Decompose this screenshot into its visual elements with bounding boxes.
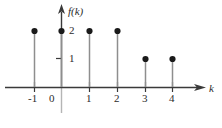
x-tick-label-2: 2 [114, 93, 120, 104]
marker-k-1 [86, 28, 92, 34]
marker-k-4 [169, 56, 175, 62]
x-axis-label-text: k [209, 82, 214, 94]
data-point-markers [31, 28, 175, 62]
stem-lines [35, 31, 173, 87]
y-axis-label: f(k) [68, 6, 83, 17]
x-tick-label-3: 3 [142, 93, 148, 104]
stem-plot-figure: f(k) k 2 1 -1 0 1 2 3 4 [0, 0, 222, 128]
x-axis-label: k [209, 83, 214, 94]
plot-canvas [0, 0, 222, 128]
y-axis-label-text: f(k) [68, 5, 83, 17]
marker-k-2 [114, 28, 120, 34]
y-tick-label-1: 1 [69, 53, 75, 64]
marker-k-3 [142, 56, 148, 62]
x-tick-label-0: 0 [49, 93, 55, 104]
marker-k-0 [58, 28, 64, 34]
x-tick-label-1: 1 [86, 93, 92, 104]
x-tick-label-4: 4 [169, 93, 175, 104]
x-tick-label-minus1: -1 [28, 93, 37, 104]
marker-k-minus1 [31, 28, 37, 34]
y-tick-label-2: 2 [69, 25, 75, 36]
